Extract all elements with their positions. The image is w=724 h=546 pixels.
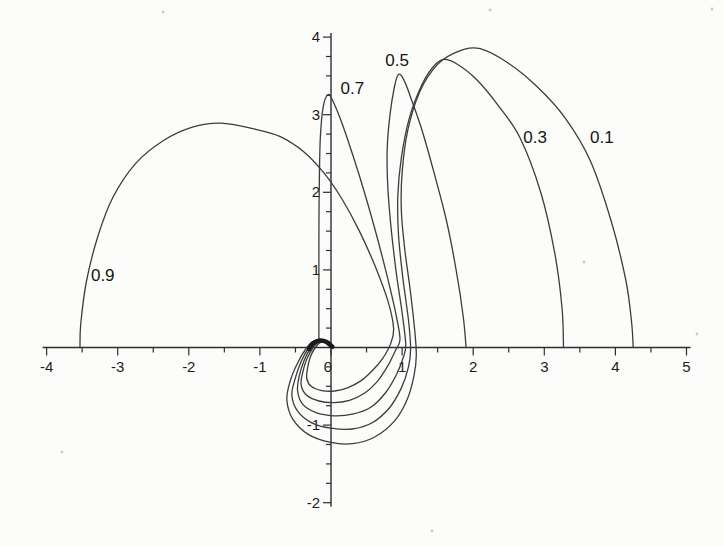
scan-speckle — [711, 8, 714, 11]
y-tick-label: 4 — [312, 28, 320, 45]
y-tick-label: -2 — [307, 494, 320, 511]
x-tick-label: -1 — [253, 358, 266, 375]
scan-speckle — [696, 333, 699, 336]
curve-label-0.5: 0.5 — [385, 51, 409, 70]
x-tick-label: 2 — [469, 358, 477, 375]
scan-speckle — [431, 530, 434, 533]
y-tick-label: -1 — [307, 416, 320, 433]
x-tick-label: -3 — [111, 358, 124, 375]
y-tick-label: 3 — [312, 106, 320, 123]
curve-label-0.7: 0.7 — [341, 79, 365, 98]
curve-0.5 — [297, 74, 466, 416]
curve-0.9 — [80, 123, 394, 391]
x-tick-label: 5 — [682, 358, 690, 375]
curve-label-0.3: 0.3 — [523, 128, 547, 147]
scanned-plot-figure: -4-3-2-1012345 -2-11234 0.10.30.50.70.9 — [0, 0, 724, 546]
x-tick-label: 3 — [540, 358, 548, 375]
curve-0.1 — [287, 48, 633, 444]
x-tick-label: -4 — [40, 358, 53, 375]
x-tick-label: 4 — [611, 358, 619, 375]
scan-speckle — [489, 9, 492, 12]
trajectory-curves — [80, 48, 633, 444]
curve-0.3 — [292, 59, 564, 429]
scan-speckle — [61, 451, 64, 454]
scan-speckle — [162, 11, 165, 14]
x-tick-label: -2 — [182, 358, 195, 375]
curve-0.7 — [301, 94, 400, 402]
x-axis: -4-3-2-1012345 — [40, 348, 691, 375]
plot-canvas: -4-3-2-1012345 -2-11234 0.10.30.50.70.9 — [0, 0, 724, 546]
curve-label-0.9: 0.9 — [91, 266, 115, 285]
curve-label-0.1: 0.1 — [590, 128, 614, 147]
curve-labels: 0.10.30.50.70.9 — [91, 51, 614, 285]
scan-speckle — [583, 261, 586, 264]
scan-speckles — [61, 8, 714, 533]
